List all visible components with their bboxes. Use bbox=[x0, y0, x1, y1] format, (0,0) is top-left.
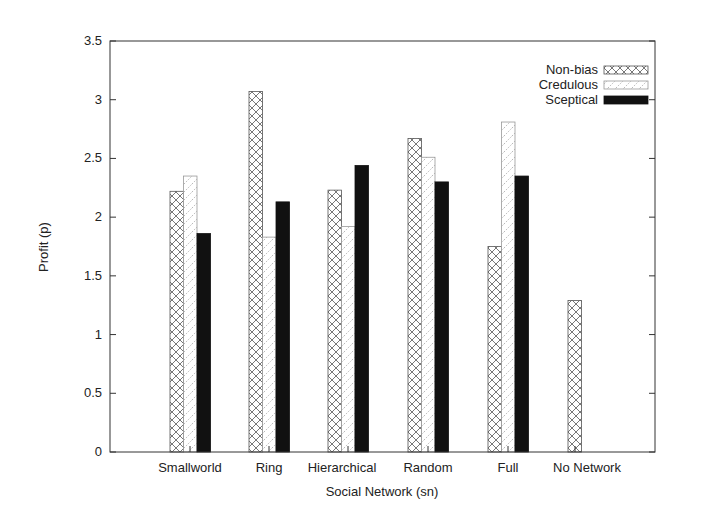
legend-label: Sceptical bbox=[545, 92, 598, 107]
x-tick-label: Hierarchical bbox=[308, 460, 377, 475]
legend-label: Credulous bbox=[539, 77, 599, 92]
bar-sceptical bbox=[197, 234, 211, 452]
x-tick-label: Random bbox=[403, 460, 452, 475]
bar-sceptical bbox=[435, 182, 449, 452]
bar-non-bias bbox=[328, 190, 342, 452]
x-tick-label: Ring bbox=[256, 460, 283, 475]
bar-non-bias bbox=[408, 138, 422, 452]
bar-non-bias bbox=[568, 301, 582, 452]
bar-non-bias bbox=[488, 247, 502, 453]
x-tick-label: Smallworld bbox=[158, 460, 222, 475]
bar-chart: 00.511.522.533.5SmallworldRingHierarchic… bbox=[0, 0, 703, 523]
bar-credulous bbox=[184, 176, 198, 452]
bar-credulous bbox=[502, 122, 516, 452]
y-tick-label: 3 bbox=[95, 92, 102, 107]
bar-sceptical bbox=[515, 176, 529, 452]
y-tick-label: 1.5 bbox=[84, 268, 102, 283]
legend-swatch bbox=[604, 96, 648, 104]
y-tick-label: 0.5 bbox=[84, 385, 102, 400]
y-tick-label: 2 bbox=[95, 209, 102, 224]
legend-swatch bbox=[604, 81, 648, 89]
bar-credulous bbox=[263, 237, 277, 452]
legend-label: Non-bias bbox=[546, 62, 599, 77]
bar-non-bias bbox=[249, 91, 263, 452]
y-tick-label: 1 bbox=[95, 327, 102, 342]
y-tick-label: 0 bbox=[95, 444, 102, 459]
bar-sceptical bbox=[355, 165, 369, 452]
legend-swatch bbox=[604, 66, 648, 74]
x-tick-label: Full bbox=[498, 460, 519, 475]
y-axis-label: Profit (p) bbox=[36, 222, 51, 272]
x-tick-label: No Network bbox=[553, 460, 621, 475]
y-tick-label: 3.5 bbox=[84, 33, 102, 48]
bar-non-bias bbox=[170, 191, 184, 452]
x-axis-label: Social Network (sn) bbox=[326, 484, 439, 499]
legend: Non-biasCredulousSceptical bbox=[539, 62, 648, 107]
bar-sceptical bbox=[276, 202, 290, 452]
bar-credulous bbox=[422, 157, 436, 452]
y-tick-label: 2.5 bbox=[84, 150, 102, 165]
bar-credulous bbox=[342, 227, 356, 452]
plot-area bbox=[170, 91, 582, 452]
